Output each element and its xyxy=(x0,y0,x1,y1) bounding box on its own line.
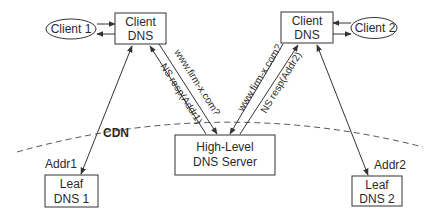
leaf-dns1-node: Leaf DNS 1 xyxy=(45,175,98,207)
svg-text:Leaf: Leaf xyxy=(365,178,389,192)
leaf-dns2-node: Leaf DNS 2 xyxy=(352,176,402,206)
svg-text:Client 2: Client 2 xyxy=(355,21,396,35)
left-dns-leaf1-arrow xyxy=(81,46,132,174)
svg-text:Client: Client xyxy=(125,15,156,29)
client-dns-right-node: Client DNS xyxy=(281,12,333,43)
high-level-dns-server-node: High-Level DNS Server xyxy=(175,135,275,175)
addr1-label: Addr1 xyxy=(45,157,77,171)
svg-text:DNS: DNS xyxy=(128,29,153,43)
addr2-label: Addr2 xyxy=(374,158,406,172)
svg-text:Client 1: Client 1 xyxy=(51,22,92,36)
svg-text:Client: Client xyxy=(292,14,323,28)
client2-node: Client 2 xyxy=(351,18,397,39)
cdn-label: CDN xyxy=(103,126,129,140)
svg-text:DNS: DNS xyxy=(294,28,319,42)
svg-text:DNS Server: DNS Server xyxy=(193,155,257,169)
svg-text:Leaf: Leaf xyxy=(60,177,84,191)
right-dns-leaf2-arrow xyxy=(317,45,368,175)
svg-text:DNS 1: DNS 1 xyxy=(54,192,90,206)
svg-text:High-Level: High-Level xyxy=(196,140,253,154)
cdn-dns-diagram: CDN Client 1 Client DNS Client 2 Client … xyxy=(0,0,437,217)
ns-resp-addr1-label: NS resp(Addr1) xyxy=(158,61,205,125)
client1-node: Client 1 xyxy=(46,19,96,39)
svg-text:DNS 2: DNS 2 xyxy=(359,192,395,206)
client-dns-left-node: Client DNS xyxy=(115,13,166,44)
